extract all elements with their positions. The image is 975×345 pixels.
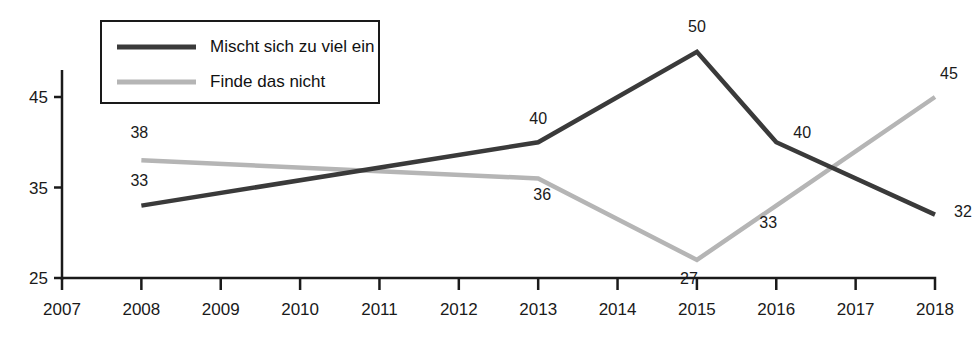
x-tick-label: 2017 xyxy=(837,300,875,319)
x-tick-label: 2012 xyxy=(440,300,478,319)
y-tick-label: 25 xyxy=(29,269,48,288)
x-tick-label: 2008 xyxy=(122,300,160,319)
x-axis-tick-labels: 2007200820092010201120122013201420152016… xyxy=(43,300,954,319)
x-tick-label: 2013 xyxy=(519,300,557,319)
data-label: 45 xyxy=(940,65,958,82)
x-tick-label: 2009 xyxy=(202,300,240,319)
data-label: 36 xyxy=(533,186,551,203)
x-axis-ticks xyxy=(62,278,856,290)
y-tick-label: 45 xyxy=(29,88,48,107)
chart-canvas: 253545 200720082009201020112012201320142… xyxy=(0,0,975,345)
legend: Mischt sich zu viel ein Finde das nicht xyxy=(101,21,379,103)
line-chart: 253545 200720082009201020112012201320142… xyxy=(0,0,975,345)
y-axis-tick-labels: 253545 xyxy=(29,88,48,288)
x-tick-label: 2014 xyxy=(599,300,637,319)
data-label: 27 xyxy=(680,270,698,287)
x-tick-label: 2016 xyxy=(757,300,795,319)
x-tick-label: 2010 xyxy=(281,300,319,319)
legend-label-finde-das-nicht: Finde das nicht xyxy=(210,72,326,91)
data-label: 40 xyxy=(793,124,811,141)
data-label: 50 xyxy=(688,18,706,35)
data-label: 32 xyxy=(954,203,972,220)
data-label: 38 xyxy=(130,124,148,141)
x-tick-label: 2011 xyxy=(361,300,398,319)
data-label: 33 xyxy=(130,172,148,189)
x-tick-label: 2018 xyxy=(916,300,954,319)
data-label: 40 xyxy=(529,110,547,127)
data-label: 33 xyxy=(759,214,777,231)
legend-label-mischt-sich-zu-viel-ein: Mischt sich zu viel ein xyxy=(210,37,374,56)
x-axis-line xyxy=(62,278,935,290)
y-tick-label: 35 xyxy=(29,179,48,198)
x-tick-label: 2007 xyxy=(43,300,81,319)
x-tick-label: 2015 xyxy=(678,300,716,319)
